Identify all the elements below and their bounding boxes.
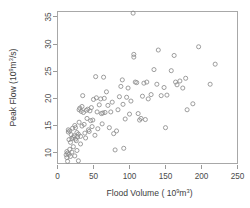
x-tick-label: 0	[55, 172, 60, 181]
data-point	[110, 100, 114, 104]
data-point	[159, 94, 163, 98]
data-point	[152, 68, 156, 72]
data-point	[76, 159, 80, 163]
data-point	[163, 126, 167, 130]
data-point	[70, 150, 74, 154]
y-axis-title: Peak Flow (109m3/s)	[8, 48, 18, 126]
data-point	[162, 85, 166, 89]
data-point	[96, 127, 100, 131]
data-point	[165, 93, 169, 97]
data-point	[107, 126, 111, 130]
data-point	[178, 79, 182, 83]
data-point	[208, 82, 212, 86]
y-tick-label: 15	[44, 121, 53, 131]
data-point	[119, 84, 123, 88]
data-point	[181, 86, 185, 90]
plot-canvas: 050100150200250101520253035Flood Volume …	[0, 0, 250, 208]
data-point	[156, 48, 160, 52]
data-point	[197, 45, 201, 49]
x-tick-label: 250	[231, 172, 245, 181]
data-point	[109, 110, 113, 114]
data-point	[117, 95, 121, 99]
data-point	[84, 136, 88, 140]
data-point	[75, 148, 79, 152]
data-point	[184, 76, 188, 80]
data-point	[172, 53, 176, 57]
data-point	[169, 69, 173, 73]
y-axis: 101520253035	[44, 12, 57, 157]
data-point	[94, 75, 98, 79]
data-point	[83, 131, 87, 135]
data-points	[64, 11, 217, 163]
data-point	[77, 120, 81, 124]
data-point	[213, 62, 217, 66]
data-point	[78, 142, 82, 146]
scatter-plot-figure: 050100150200250101520253035Flood Volume …	[0, 0, 250, 208]
data-point	[71, 145, 75, 149]
data-point	[113, 148, 117, 152]
data-point	[132, 55, 136, 59]
x-tick-label: 100	[123, 172, 137, 181]
data-point	[73, 154, 77, 158]
data-point	[95, 110, 99, 114]
data-point	[114, 129, 118, 133]
data-point	[185, 108, 189, 112]
data-point	[126, 86, 130, 90]
data-point	[143, 117, 147, 121]
data-point	[68, 147, 72, 151]
x-tick-label: 200	[195, 172, 209, 181]
data-point	[125, 95, 129, 99]
data-point	[123, 117, 127, 121]
data-point	[149, 93, 153, 97]
data-point	[90, 125, 94, 129]
data-point	[97, 103, 101, 107]
data-point	[120, 78, 124, 82]
data-point	[81, 94, 85, 98]
data-point	[121, 102, 125, 106]
data-point	[100, 122, 104, 126]
data-point	[122, 146, 126, 150]
x-tick-label: 150	[159, 172, 173, 181]
data-point	[155, 82, 159, 86]
data-point	[116, 108, 120, 112]
x-tick-label: 50	[89, 172, 99, 181]
data-point	[127, 112, 131, 116]
y-tick-label: 20	[44, 93, 53, 103]
data-point	[93, 133, 97, 137]
y-tick-label: 35	[44, 12, 53, 22]
data-point	[136, 112, 140, 116]
data-point	[146, 97, 150, 101]
data-point	[102, 75, 106, 79]
y-tick-label: 25	[44, 66, 53, 76]
y-tick-label: 30	[44, 39, 53, 49]
data-point	[129, 99, 133, 103]
y-tick-label: 10	[44, 148, 53, 158]
data-point	[191, 102, 195, 106]
x-axis-title: Flood Volume ( 109m3)	[106, 188, 192, 198]
data-point	[106, 103, 110, 107]
data-point	[140, 94, 144, 98]
plot-frame	[58, 12, 238, 164]
x-axis: 050100150200250	[55, 165, 245, 181]
data-point	[104, 90, 108, 94]
